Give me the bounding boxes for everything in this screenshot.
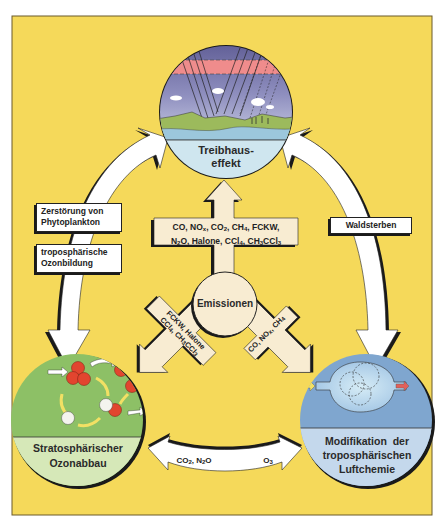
emissions-title: Emissionen — [190, 298, 260, 310]
greenhouse-title-line1: Treibhaus- — [186, 144, 266, 157]
label-phytoplankton: Zerstörung von Phytoplankton — [36, 203, 122, 232]
troposphere-title: Modifikation der troposphärischen Luftch… — [310, 434, 424, 476]
troposphere-title-line3: Luftchemie — [310, 462, 424, 476]
diagram-canvas: Treibhaus- effekt CO, NOx, CO2, CH4, FCK… — [0, 0, 445, 530]
label-phytoplankton-line1: Zerstörung von — [41, 206, 117, 217]
troposphere-title-line2: troposphärischen — [310, 448, 424, 462]
stratosphere-title: Stratosphärischer Ozonabbau — [22, 441, 134, 471]
emissions-to-greenhouse-line1: CO, NOx, CO2, CH4, FCKW, — [154, 221, 298, 235]
label-waldsterben-text: Waldsterben — [335, 220, 407, 231]
label-phytoplankton-line2: Phytoplankton — [41, 217, 117, 228]
emissions-to-greenhouse-line2: N2O, Halone, CCl4, CH3CCl3 — [154, 235, 298, 249]
label-ozonbildung: troposphärische Ozonbildung — [36, 244, 122, 273]
greenhouse-title-line2: effekt — [186, 157, 266, 170]
label-o3: O3 — [258, 456, 278, 466]
stratosphere-title-line2: Ozonabbau — [22, 456, 134, 471]
troposphere-title-line1: Modifikation der — [310, 434, 424, 448]
label-co2-n2o: CO2, N2O — [174, 456, 214, 466]
label-ozonbildung-line2: Ozonbildung — [41, 258, 117, 269]
emissions-to-greenhouse-label: CO, NOx, CO2, CH4, FCKW, N2O, Halone, CC… — [154, 221, 298, 249]
label-waldsterben: Waldsterben — [330, 217, 412, 234]
greenhouse-title: Treibhaus- effekt — [186, 144, 266, 169]
label-ozonbildung-line1: troposphärische — [41, 247, 117, 258]
stratosphere-title-line1: Stratosphärischer — [22, 441, 134, 456]
